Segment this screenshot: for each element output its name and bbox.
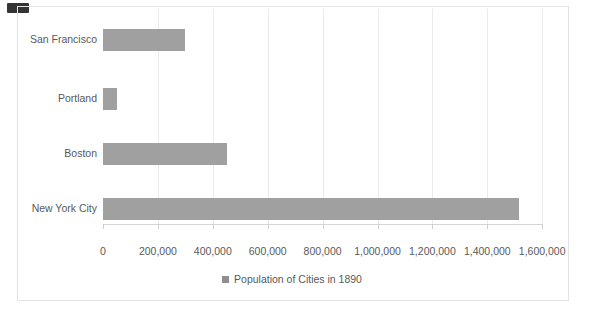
gridline [213,9,214,224]
axis-tick [432,224,433,229]
axis-tick [213,224,214,229]
category-label-portland: Portland [0,92,97,105]
axis-tick [323,224,324,229]
axis-tick [103,224,104,229]
axis-tick [378,224,379,229]
axis-tick [487,224,488,229]
category-label-san-francisco: San Francisco [0,33,97,46]
gridline [487,9,488,224]
gridline [432,9,433,224]
category-label-new-york-city: New York City [0,202,97,215]
bar-chart: San FranciscoPortlandBostonNew York City… [0,0,593,311]
plot-area [103,9,543,225]
axis-tick [542,224,543,229]
bar-portland [103,88,117,110]
axis-tick [268,224,269,229]
x-tick-label: 1,600,000 [500,245,584,258]
gridline [268,9,269,224]
gridline [323,9,324,224]
bar-boston [103,143,227,165]
legend-marker-icon [222,276,229,283]
category-label-boston: Boston [0,147,97,160]
bar-san-francisco [103,29,185,51]
bar-new-york-city [103,198,519,220]
gridline [542,9,543,224]
legend: Population of Cities in 1890 [17,272,567,286]
legend-label: Population of Cities in 1890 [234,273,362,286]
axis-tick [158,224,159,229]
gridline [378,9,379,224]
